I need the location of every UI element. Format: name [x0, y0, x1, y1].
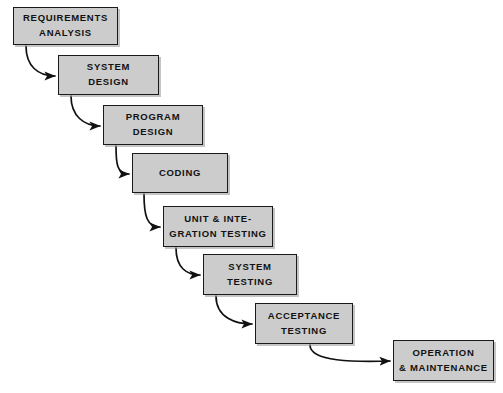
waterfall-diagram: REQUIREMENTSANALYSISSYSTEMDESIGNPROGRAMD…: [0, 0, 503, 393]
phase-label-unit-and-integration-testing-line-1: UNIT & INTE-: [184, 212, 252, 227]
edge-system-test-to-acceptance-test: [216, 296, 252, 324]
phase-box-system-testing[interactable]: SYSTEMTESTING: [203, 254, 297, 295]
phase-label-acceptance-testing-line-1: ACCEPTANCE: [268, 309, 340, 324]
phase-label-requirements-analysis-line-2: ANALYSIS: [39, 26, 92, 41]
phase-label-operation-and-maintenance-line-2: & MAINTENANCE: [399, 361, 488, 376]
phase-box-acceptance-testing[interactable]: ACCEPTANCETESTING: [255, 303, 353, 344]
phase-label-system-testing-line-2: TESTING: [227, 275, 273, 290]
edge-program-design-to-coding: [116, 146, 129, 174]
phase-label-acceptance-testing-line-2: TESTING: [281, 324, 327, 339]
phase-label-unit-and-integration-testing-line-2: GRATION TESTING: [169, 227, 266, 242]
phase-label-operation-and-maintenance-line-1: OPERATION: [412, 346, 474, 361]
phase-label-system-design-line-1: SYSTEM: [87, 60, 130, 75]
edge-coding-to-unit-integration: [144, 194, 160, 227]
edge-requirements-to-system-design: [26, 46, 55, 76]
phase-box-unit-and-integration-testing[interactable]: UNIT & INTE-GRATION TESTING: [163, 206, 273, 247]
phase-label-system-testing-line-1: SYSTEM: [228, 260, 271, 275]
phase-box-coding[interactable]: CODING: [132, 153, 228, 193]
phase-label-system-design-line-2: DESIGN: [88, 75, 129, 90]
phase-box-program-design[interactable]: PROGRAMDESIGN: [103, 105, 203, 145]
phase-box-requirements-analysis[interactable]: REQUIREMENTSANALYSIS: [13, 7, 118, 45]
edge-system-design-to-program-design: [71, 96, 100, 126]
phase-label-requirements-analysis-line-1: REQUIREMENTS: [23, 11, 108, 26]
phase-box-system-design[interactable]: SYSTEMDESIGN: [58, 55, 159, 95]
phase-label-coding-line-1: CODING: [159, 166, 201, 181]
edge-acceptance-test-to-operation: [310, 345, 390, 361]
edge-unit-integration-to-system-test: [176, 248, 200, 275]
phase-label-program-design-line-1: PROGRAM: [126, 110, 181, 125]
phase-box-operation-and-maintenance[interactable]: OPERATION& MAINTENANCE: [393, 340, 494, 381]
phase-label-program-design-line-2: DESIGN: [133, 125, 174, 140]
